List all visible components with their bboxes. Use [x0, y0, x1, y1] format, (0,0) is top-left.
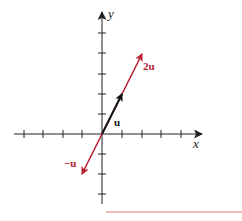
vector-diagram: y x 2u u −u	[0, 0, 242, 221]
x-axis-label: x	[192, 136, 199, 151]
label-2u: 2u	[143, 60, 155, 72]
x-axis	[14, 130, 202, 138]
label-neg-u: −u	[64, 157, 76, 169]
label-u: u	[114, 116, 120, 128]
y-axis-label: y	[106, 6, 114, 21]
y-axis	[98, 12, 106, 204]
